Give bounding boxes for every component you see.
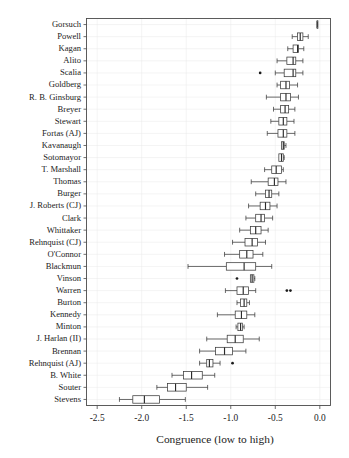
y-axis-label-minton: Minton: [56, 321, 82, 331]
y-axis-label-goldberg: Goldberg: [49, 79, 82, 89]
box: [245, 238, 257, 245]
x-axis-tick-label: 0.0: [314, 413, 326, 423]
x-axis-tick-labels: -2.5-2.0-1.5-1.0-0.50.0: [90, 413, 326, 423]
outlier-point: [289, 289, 292, 292]
y-axis-label-powell: Powell: [57, 31, 81, 41]
y-axis-label-stevens: Stevens: [54, 394, 81, 404]
y-axis-label-scalia: Scalia: [60, 67, 81, 77]
x-axis-tick-label: -1.5: [179, 413, 194, 423]
y-axis-label-burton: Burton: [57, 297, 82, 307]
boxplot-alito: [277, 57, 303, 64]
boxplot-breyer: [274, 105, 295, 112]
boxplot-clark: [246, 214, 273, 221]
y-axis-label-clark: Clark: [62, 213, 82, 223]
y-axis-label-stewart: Stewart: [55, 116, 82, 126]
y-axis-label-r-b-ginsburg: R. B. Ginsburg: [29, 92, 82, 102]
y-axis-label-brennan: Brennan: [52, 346, 82, 356]
x-axis-tick-label: -2.5: [90, 413, 105, 423]
boxplot-souter: [157, 384, 208, 391]
boxplot-goldberg: [277, 81, 297, 88]
boxplot-figure: GorsuchPowellKaganAlitoScaliaGoldbergR. …: [0, 0, 349, 458]
y-axis-label-kennedy: Kennedy: [50, 309, 82, 319]
box: [268, 178, 278, 185]
boxplot-stevens: [119, 396, 185, 403]
outlier-point: [286, 289, 289, 292]
x-axis-tick-label: -1.0: [223, 413, 238, 423]
boxplot-whittaker: [240, 226, 268, 233]
box: [284, 69, 296, 76]
boxplot-minton: [236, 323, 244, 330]
boxplot-fortas-aj: [267, 130, 295, 137]
y-axis-label-whittaker: Whittaker: [47, 225, 81, 235]
y-axis-label-kagan: Kagan: [59, 43, 82, 53]
y-axis-label-rehnquist-cj: Rehnquist (CJ): [29, 237, 81, 247]
outlier-point: [236, 277, 239, 280]
y-axis-labels: GorsuchPowellKaganAlitoScaliaGoldbergR. …: [29, 19, 82, 404]
box: [133, 396, 160, 403]
box: [168, 384, 187, 391]
y-axis-label-b-white: B. White: [50, 370, 81, 380]
congruence-boxplot-chart: GorsuchPowellKaganAlitoScaliaGoldbergR. …: [0, 0, 349, 458]
boxplot-j-harlan-ii: [207, 335, 260, 342]
y-axis-label-t-marshall: T. Marshall: [42, 164, 82, 174]
boxplot-sotomayor: [279, 154, 284, 161]
x-axis-tick-label: -0.5: [268, 413, 283, 423]
x-axis-title: Congruence (low to high): [156, 433, 274, 446]
boxplot-b-white: [172, 372, 215, 379]
y-axis-label-thomas: Thomas: [53, 176, 81, 186]
y-axis-label-kavanaugh: Kavanaugh: [42, 140, 82, 150]
y-axis-label-gorsuch: Gorsuch: [52, 19, 82, 29]
y-axis-label-souter: Souter: [59, 382, 82, 392]
y-axis-label-j-harlan-ii: J. Harlan (II): [36, 333, 81, 343]
x-axis-tick-label: -2.0: [134, 413, 149, 423]
boxplot-o-connor: [225, 251, 263, 258]
y-axis-label-sotomayor: Sotomayor: [43, 152, 81, 162]
boxplot-thomas: [251, 178, 286, 185]
box: [287, 57, 296, 64]
boxplot-burton: [237, 299, 249, 306]
y-axis-label-o-connor: O'Connor: [47, 249, 81, 259]
boxplot-t-marshall: [265, 166, 284, 173]
boxplot-j-roberts-cj: [249, 202, 277, 209]
y-axis-label-j-roberts-cj: J. Roberts (CJ): [30, 200, 81, 210]
boxplot-blackmun: [188, 263, 272, 270]
boxplot-kagan: [288, 45, 304, 52]
boxplot-stewart: [271, 118, 294, 125]
outlier-point: [259, 72, 262, 75]
x-axis-tick-marks: [97, 406, 320, 410]
box: [281, 81, 290, 88]
y-axis-label-burger: Burger: [57, 188, 81, 198]
y-axis-label-fortas-aj: Fortas (AJ): [42, 128, 81, 138]
box: [184, 372, 203, 379]
boxplot-kavanaugh: [282, 142, 286, 149]
box: [278, 130, 287, 137]
y-axis-label-blackmun: Blackmun: [46, 261, 82, 271]
box: [256, 214, 265, 221]
boxplot-kennedy: [217, 311, 254, 318]
y-axis-label-breyer: Breyer: [58, 104, 82, 114]
boxplot-series: [119, 21, 317, 403]
outlier-point: [231, 362, 234, 365]
box: [226, 263, 255, 270]
y-axis-label-vinson: Vinson: [57, 273, 82, 283]
boxplot-brennan: [200, 347, 246, 354]
boxplot-rehnquist-cj: [233, 238, 266, 245]
y-axis-label-warren: Warren: [56, 285, 82, 295]
boxplot-gorsuch: [317, 21, 318, 28]
boxplot-r-b-ginsburg: [266, 93, 298, 100]
y-axis-label-alito: Alito: [63, 55, 81, 65]
y-axis-label-rehnquist-aj: Rehnquist (AJ): [29, 358, 81, 368]
boxplot-powell: [292, 33, 308, 40]
